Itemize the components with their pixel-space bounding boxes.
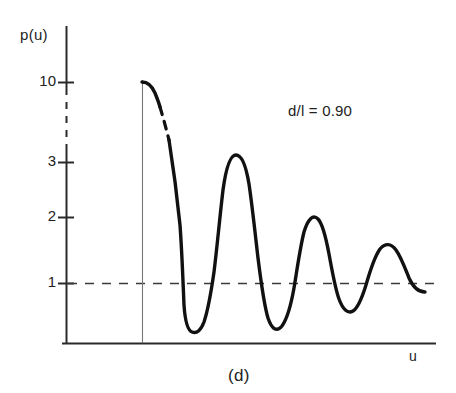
y-tick-label-10: 10 [26,72,56,89]
chart-plot [0,0,456,393]
y-tick-label-1: 1 [26,273,56,290]
x-axis-label: u [409,348,417,364]
figure-caption: (d) [228,366,250,386]
y-tick-label-3: 3 [26,152,56,169]
figure-panel: p(u) u 10 3 2 1 d/l = 0.90 (d) [0,0,456,393]
y-axis-label: p(u) [20,26,48,43]
data-curve-head [142,82,160,107]
parameter-annotation: d/l = 0.90 [288,102,352,119]
data-curve [169,140,425,333]
data-curve-break-dashed [160,107,169,140]
y-tick-label-2: 2 [26,207,56,224]
